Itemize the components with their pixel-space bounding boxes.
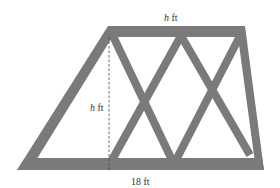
height-label: h ft xyxy=(90,102,104,113)
truss-diagram xyxy=(0,0,280,188)
top-length-unit: ft xyxy=(172,12,178,23)
top-length-label: h ft xyxy=(164,12,178,23)
diagonal-4 xyxy=(176,34,241,160)
height-var: h xyxy=(90,102,95,113)
height-unit: ft xyxy=(98,102,104,113)
top-chord xyxy=(108,26,245,37)
top-length-var: h xyxy=(164,12,169,23)
bottom-length-label: 18 ft xyxy=(131,176,150,187)
bottom-chord xyxy=(17,158,264,170)
left-slant-member xyxy=(17,26,113,170)
